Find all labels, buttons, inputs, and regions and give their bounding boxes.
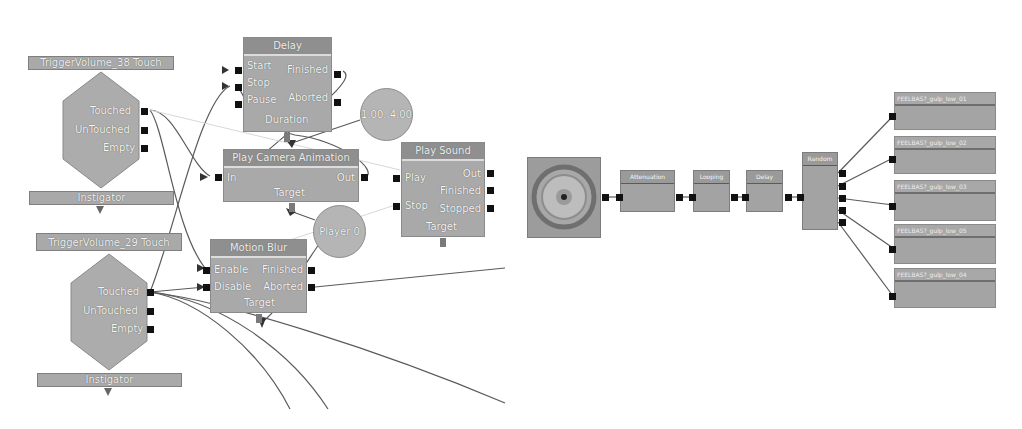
play-sound-play-port[interactable] xyxy=(393,175,400,182)
play-sound-output-out: Out xyxy=(463,168,481,179)
duration-value-variable[interactable]: 1.00..4.00 xyxy=(360,88,413,141)
trigger2-touched-port[interactable] xyxy=(147,289,154,296)
trigger2-output-empty: Empty xyxy=(111,323,143,334)
random-out-port-3[interactable] xyxy=(839,195,846,202)
delay-input-start: Start xyxy=(247,60,271,71)
play-sound-stop-port[interactable] xyxy=(393,203,400,210)
sound-delay-in-port[interactable] xyxy=(742,194,749,201)
random-in-port[interactable] xyxy=(797,194,804,201)
sound-wave-port-1[interactable] xyxy=(889,113,896,120)
play-sound-stopped-port[interactable] xyxy=(487,205,494,212)
motion-blur-input-enable: Enable xyxy=(214,264,248,275)
trigger1-touched-port[interactable] xyxy=(141,108,148,115)
attenuation-node[interactable]: Attenuation xyxy=(620,170,675,212)
trigger1-instigator-arrow-icon xyxy=(96,206,104,214)
delay-start-port[interactable] xyxy=(235,67,242,74)
sound-wave-port-5[interactable] xyxy=(889,293,896,300)
delay-duration-port[interactable] xyxy=(284,133,290,142)
motion-blur-input-disable: Disable xyxy=(214,281,251,292)
sound-delay-out-port[interactable] xyxy=(785,194,792,201)
sound-wave-title-1: FEELBAS?_gulp_low_01 xyxy=(895,93,995,106)
sound-cue-output-port[interactable] xyxy=(602,194,609,201)
play-sound-output-stopped: Stopped xyxy=(439,203,481,214)
camera-animation-output-out: Out xyxy=(337,172,355,183)
sound-delay-node[interactable]: Delay xyxy=(746,170,783,212)
trigger1-instigator-bar[interactable]: Instigator xyxy=(29,191,174,205)
motion-blur-aborted-port[interactable] xyxy=(308,284,315,291)
camera-animation-title: Play Camera Animation xyxy=(224,150,358,168)
motion-blur-node[interactable]: Motion Blur Enable Disable Finished Abor… xyxy=(210,239,307,313)
delay-output-finished: Finished xyxy=(287,64,328,75)
delay-title: Delay xyxy=(244,38,331,56)
sound-wave-node-3[interactable]: FEELBAS?_gulp_low_03 xyxy=(894,180,996,221)
trigger2-output-touched: Touched xyxy=(98,286,139,297)
play-sound-node[interactable]: Play Sound Play Stop Out Finished Stoppe… xyxy=(401,142,485,237)
motion-blur-target-port[interactable] xyxy=(256,314,262,323)
play-sound-target-port[interactable] xyxy=(440,238,446,247)
sound-cue-output-node[interactable] xyxy=(527,157,601,238)
delay-input-pause: Pause xyxy=(247,94,276,105)
sound-wave-port-4[interactable] xyxy=(889,246,896,253)
looping-out-port[interactable] xyxy=(731,194,738,201)
random-out-port-5[interactable] xyxy=(839,219,846,226)
sound-wave-title-4: FEELBAS?_gulp_low_05 xyxy=(895,225,995,238)
trigger2-title-bar[interactable]: TriggerVolume_29 Touch xyxy=(36,233,182,251)
play-sound-input-stop: Stop xyxy=(405,200,428,211)
camera-animation-node[interactable]: Play Camera Animation In Out Target xyxy=(223,149,359,202)
trigger1-untouched-port[interactable] xyxy=(141,127,148,134)
delay-finished-port[interactable] xyxy=(334,71,341,78)
attenuation-in-port[interactable] xyxy=(616,194,623,201)
attenuation-out-port[interactable] xyxy=(676,194,683,201)
delay-output-aborted: Aborted xyxy=(288,92,328,103)
random-out-port-2[interactable] xyxy=(839,183,846,190)
trigger2-instigator-arrow-icon xyxy=(104,388,112,396)
motion-blur-output-aborted: Aborted xyxy=(263,281,303,292)
trigger2-empty-port[interactable] xyxy=(147,326,154,333)
attenuation-title: Attenuation xyxy=(621,171,674,184)
sound-wave-port-2[interactable] xyxy=(889,156,896,163)
sound-wave-title-5: FEELBAS?_gulp_low_04 xyxy=(895,269,995,282)
random-node[interactable]: Random xyxy=(802,152,838,230)
delay-stop-port[interactable] xyxy=(235,84,242,91)
looping-title: Looping xyxy=(694,171,729,184)
camera-animation-out-port[interactable] xyxy=(361,174,368,181)
trigger1-empty-port[interactable] xyxy=(141,145,148,152)
trigger2-instigator-bar[interactable]: Instigator xyxy=(37,373,182,387)
delay-pause-port[interactable] xyxy=(235,101,242,108)
camera-animation-in-port[interactable] xyxy=(215,174,222,181)
delay-aborted-port[interactable] xyxy=(334,99,341,106)
trigger2-output-untouched: UnTouched xyxy=(83,305,138,316)
motion-blur-enable-port[interactable] xyxy=(203,267,210,274)
random-title: Random xyxy=(803,153,837,166)
sound-wave-port-3[interactable] xyxy=(889,203,896,210)
sound-wave-node-4[interactable]: FEELBAS?_gulp_low_05 xyxy=(894,224,996,264)
looping-node[interactable]: Looping xyxy=(693,170,730,212)
play-sound-finished-port[interactable] xyxy=(487,187,494,194)
play-sound-out-port[interactable] xyxy=(487,170,494,177)
looping-in-port[interactable] xyxy=(689,194,696,201)
sound-delay-title: Delay xyxy=(747,171,782,184)
random-out-port-4[interactable] xyxy=(839,207,846,214)
motion-blur-finished-port[interactable] xyxy=(308,267,315,274)
trigger1-output-empty: Empty xyxy=(103,142,135,153)
trigger2-untouched-port[interactable] xyxy=(147,308,154,315)
trigger1-output-untouched: UnTouched xyxy=(75,124,130,135)
sound-wave-title-2: FEELBAS?_gulp_low_02 xyxy=(895,137,995,150)
kismet-canvas[interactable]: TriggerVolume_38 Touch Touched UnTouched… xyxy=(0,0,1022,429)
random-out-port-1[interactable] xyxy=(839,170,846,177)
play-sound-output-finished: Finished xyxy=(440,185,481,196)
player-variable[interactable]: Player 0 xyxy=(313,205,366,258)
trigger1-title-bar[interactable]: TriggerVolume_38 Touch xyxy=(28,56,174,70)
speaker-icon xyxy=(528,158,600,237)
sound-wave-node-5[interactable]: FEELBAS?_gulp_low_04 xyxy=(894,268,996,308)
delay-variable-duration: Duration xyxy=(265,114,308,125)
play-sound-input-play: Play xyxy=(405,172,426,183)
camera-animation-target-port[interactable] xyxy=(289,203,295,212)
camera-animation-input-in: In xyxy=(227,172,236,183)
motion-blur-title: Motion Blur xyxy=(211,240,306,258)
sound-wave-node-1[interactable]: FEELBAS?_gulp_low_01 xyxy=(894,92,996,130)
motion-blur-variable-target: Target xyxy=(244,297,275,308)
delay-node[interactable]: Delay Start Stop Pause Finished Aborted … xyxy=(243,37,332,132)
motion-blur-disable-port[interactable] xyxy=(203,284,210,291)
sound-wave-node-2[interactable]: FEELBAS?_gulp_low_02 xyxy=(894,136,996,174)
